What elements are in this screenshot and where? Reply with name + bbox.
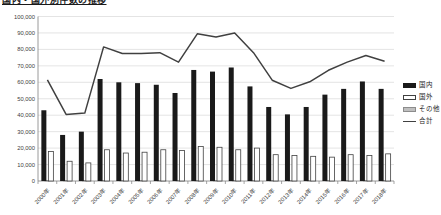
gray-bar-swatch-icon (403, 107, 416, 112)
bar-domestic (79, 132, 84, 181)
bar-domestic (229, 67, 234, 181)
bar-foreign (236, 150, 241, 181)
y-axis-tick-label: 10,000 (17, 162, 35, 168)
y-axis-tick-label: 70,000 (17, 63, 35, 69)
legend-item-domestic: 国内 (403, 81, 440, 89)
bar-foreign (123, 153, 128, 181)
bar-foreign (329, 157, 334, 181)
x-axis-tick-label: 2002年 (70, 187, 89, 206)
x-axis-tick-label: 2007年 (164, 187, 183, 206)
bar-foreign (348, 155, 353, 181)
bar-foreign (217, 147, 222, 181)
bar-domestic (116, 82, 121, 181)
x-axis-tick-label: 2000年 (33, 187, 52, 206)
chart-container: 国内・国外別件数の推移 010,00020,00030,00040,00050,… (0, 0, 441, 215)
x-axis-tick-label: 2011年 (239, 187, 258, 206)
bar-foreign (254, 148, 259, 181)
y-axis-tick-label: 90,000 (17, 30, 35, 36)
bar-foreign (105, 150, 110, 181)
legend-item-total: 合計 (403, 117, 440, 125)
bar-foreign (292, 156, 297, 181)
chart-svg: 010,00020,00030,00040,00050,00060,00070,… (0, 0, 441, 215)
bar-domestic (60, 135, 65, 181)
bar-domestic (210, 72, 215, 181)
y-axis-tick-label: 30,000 (17, 129, 35, 135)
legend-label: その他 (419, 105, 440, 113)
bar-domestic (247, 86, 252, 181)
black-bar-swatch-icon (403, 83, 416, 88)
x-axis-tick-label: 2009年 (201, 187, 220, 206)
x-axis-tick-label: 2005年 (126, 187, 145, 206)
bar-domestic (341, 89, 346, 181)
bar-foreign (273, 155, 278, 181)
bar-foreign (198, 146, 203, 181)
bar-foreign (67, 161, 72, 181)
y-axis-tick-label: 20,000 (17, 145, 35, 151)
bar-domestic (98, 79, 103, 181)
bar-foreign (367, 156, 372, 181)
y-axis-tick-label: 100,000 (14, 14, 35, 20)
bar-domestic (304, 107, 309, 181)
white-bar-swatch-icon (403, 95, 416, 100)
x-axis-tick-label: 2010年 (220, 187, 239, 206)
legend-label: 合計 (419, 117, 433, 125)
bar-foreign (48, 151, 53, 181)
bar-foreign (161, 150, 166, 181)
bar-foreign (142, 152, 147, 181)
legend-item-foreign: 国外 (403, 93, 440, 101)
legend-item-other: その他 (403, 105, 440, 113)
chart-title-clipped: 国内・国外別件数の推移 (2, 0, 107, 6)
line-swatch-icon (403, 121, 416, 122)
bar-foreign (311, 156, 316, 181)
bar-domestic (191, 70, 196, 181)
y-axis-tick-label: 80,000 (17, 46, 35, 52)
bar-domestic (379, 89, 384, 181)
bar-domestic (173, 93, 178, 181)
x-axis-tick-label: 2016年 (333, 187, 352, 206)
y-axis-tick-label: 50,000 (17, 96, 35, 102)
chart-legend: 国内 国外 その他 合計 (403, 81, 440, 125)
y-axis-tick-label: 40,000 (17, 112, 35, 118)
x-axis-tick-label: 2014年 (295, 187, 314, 206)
bar-domestic (41, 110, 46, 181)
x-axis-tick-label: 2003年 (89, 187, 108, 206)
x-axis-tick-label: 2008年 (183, 187, 202, 206)
bar-foreign (180, 151, 185, 181)
x-axis-tick-label: 2013年 (276, 187, 295, 206)
bar-foreign (86, 163, 91, 181)
x-axis-tick-label: 2012年 (258, 187, 277, 206)
bar-domestic (322, 95, 327, 181)
bar-domestic (266, 107, 271, 181)
x-axis-tick-label: 2001年 (51, 187, 70, 206)
y-axis-tick-label: 60,000 (17, 79, 35, 85)
x-axis-tick-label: 2017年 (351, 187, 370, 206)
bar-domestic (154, 85, 159, 181)
legend-label: 国内 (419, 81, 433, 89)
bar-domestic (360, 81, 365, 181)
bar-domestic (285, 114, 290, 181)
x-axis-tick-label: 2015年 (314, 187, 333, 206)
x-axis-tick-label: 2004年 (108, 187, 127, 206)
bar-domestic (135, 83, 140, 181)
x-axis-tick-label: 2018年 (370, 187, 389, 206)
y-axis-tick-label: 0 (32, 178, 35, 184)
bar-foreign (386, 154, 391, 181)
legend-label: 国外 (419, 93, 433, 101)
x-axis-tick-label: 2006年 (145, 187, 164, 206)
